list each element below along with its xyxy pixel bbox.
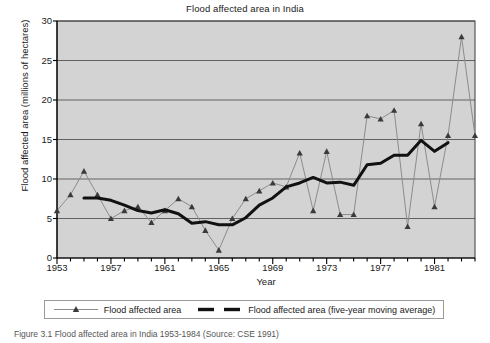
plot-area [0,0,490,325]
legend-label-moving-average: Flood affected area (five-year moving av… [248,305,435,315]
chart-legend: Flood affected area Flood affected area … [44,300,444,319]
chart-card: Flood affected area in India Flood affec… [0,0,490,325]
figure: Flood affected area in India Flood affec… [0,0,490,343]
legend-label-series: Flood affected area [104,305,181,315]
thick-line-icon [197,304,243,315]
triangle-marker-icon [53,304,99,315]
legend-item-moving-average: Flood affected area (five-year moving av… [197,304,435,315]
legend-item-flood-affected-area: Flood affected area [53,304,181,315]
figure-caption: Figure 3.1 Flood affected area in India … [14,329,484,339]
